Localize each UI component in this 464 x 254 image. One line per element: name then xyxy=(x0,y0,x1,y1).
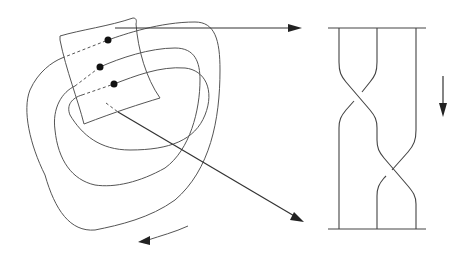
braid-strand-middle-top xyxy=(362,28,377,92)
point-3 xyxy=(111,81,118,88)
point-1 xyxy=(105,37,112,44)
surface-patch xyxy=(60,18,160,124)
mapping-arrow-top xyxy=(115,24,302,32)
braid-strand-under-2 xyxy=(377,176,386,229)
counterclockwise-arrow xyxy=(138,226,188,245)
point-2 xyxy=(97,64,104,71)
dashed-inner xyxy=(82,84,114,95)
braid-strand-right xyxy=(392,28,416,170)
dashed-middle xyxy=(75,67,100,86)
braid-strand-middle-under-1 xyxy=(339,101,354,229)
dashed-outer xyxy=(62,40,108,58)
mapping-arrow-bottom xyxy=(118,112,304,222)
diagram-canvas xyxy=(0,0,464,254)
dashed-pointer xyxy=(106,103,118,112)
braid-diagram xyxy=(0,0,464,254)
down-arrow xyxy=(439,76,447,117)
